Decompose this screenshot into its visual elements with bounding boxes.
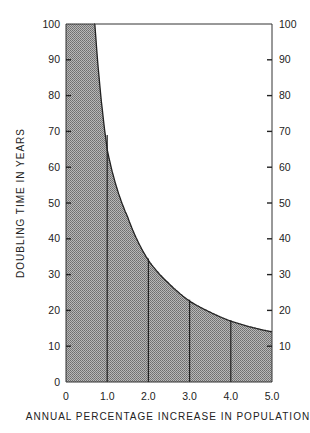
right-y-tick-label: 10 (279, 340, 291, 352)
right-y-tick-label: 90 (279, 53, 291, 65)
x-tick-label: 3.0 (182, 390, 197, 402)
y-tick-label: 10 (48, 340, 60, 352)
right-y-tick-label: 100 (279, 18, 297, 30)
y-axis-label: DOUBLING TIME IN YEARS (15, 128, 26, 278)
right-y-tick-label: 60 (279, 161, 291, 173)
shaded-area (66, 24, 272, 382)
x-tick-label: 1.0 (100, 390, 115, 402)
right-y-tick-label: 30 (279, 268, 291, 280)
y-tick-label: 40 (48, 232, 60, 244)
y-tick-label: 80 (48, 89, 60, 101)
right-y-tick-label: 80 (279, 89, 291, 101)
right-y-tick-label: 70 (279, 125, 291, 137)
y-tick-label: 90 (48, 53, 60, 65)
y-tick-label: 100 (42, 18, 60, 30)
right-y-tick-label: 20 (279, 304, 291, 316)
y-tick-label: 60 (48, 161, 60, 173)
x-axis: 01.02.03.04.05.0 (63, 390, 279, 402)
plot-area (66, 24, 272, 382)
x-tick-label: 2.0 (141, 390, 156, 402)
y-tick-label: 0 (54, 376, 60, 388)
x-tick-label: 5.0 (265, 390, 280, 402)
y-tick-label: 30 (48, 268, 60, 280)
right-y-tick-label: 40 (279, 232, 291, 244)
y-tick-label: 70 (48, 125, 60, 137)
y-tick-label: 50 (48, 197, 60, 209)
x-axis-label: ANNUAL PERCENTAGE INCREASE IN POPULATION (26, 411, 310, 422)
x-tick-label: 4.0 (223, 390, 238, 402)
y-tick-label: 20 (48, 304, 60, 316)
right-y-axis: 102030405060708090100 (267, 18, 297, 352)
right-y-tick-label: 50 (279, 197, 291, 209)
doubling-time-chart: 0102030405060708090100 10203040506070809… (0, 0, 310, 433)
x-tick-label: 0 (63, 390, 69, 402)
